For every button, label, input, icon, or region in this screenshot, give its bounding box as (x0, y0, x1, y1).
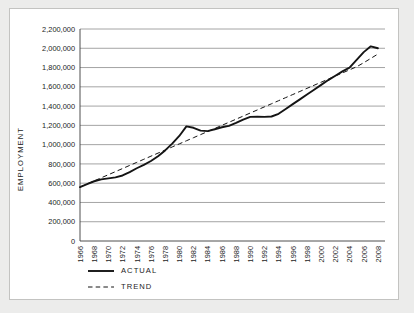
y-tick-label: 1,400,000 (42, 102, 75, 111)
series-line-trend (80, 54, 378, 187)
x-tick-label: 1982 (189, 246, 198, 262)
x-tick-label: 1990 (246, 246, 255, 262)
x-tick-label: 1966 (76, 246, 85, 262)
x-tick-label: 1974 (133, 246, 142, 262)
x-tick-label: 1978 (161, 246, 170, 262)
y-tick-label: 1,000,000 (42, 140, 75, 149)
axis-lines (80, 29, 385, 241)
y-tick-label: 800,000 (48, 160, 75, 169)
legend-label-actual: ACTUAL (121, 266, 157, 275)
x-tick-label: 2004 (345, 246, 354, 262)
y-tick-label: 0 (71, 237, 75, 246)
x-tick-label: 2008 (374, 246, 383, 262)
x-axis-tick-labels: 1966196819701972197419761978198019821984… (76, 246, 383, 262)
x-tick-label: 1992 (260, 246, 269, 262)
legend-label-trend: TREND (121, 282, 152, 291)
employment-trend-chart: 2,200,0002,000,0001,800,0001,600,0001,40… (10, 9, 398, 299)
x-tick-label: 1996 (289, 246, 298, 262)
x-tick-label: 2000 (317, 246, 326, 262)
y-tick-label: 2,200,000 (42, 25, 75, 34)
y-tick-label: 2,000,000 (42, 44, 75, 53)
y-tick-label: 400,000 (48, 198, 75, 207)
chart-legend: ACTUALTREND (88, 266, 157, 291)
y-tick-label: 200,000 (48, 217, 75, 226)
x-tick-label: 2002 (331, 246, 340, 262)
y-tick-label: 1,800,000 (42, 63, 75, 72)
x-tick-label: 1984 (203, 246, 212, 262)
x-tick-label: 1986 (218, 246, 227, 262)
y-tick-label: 600,000 (48, 179, 75, 188)
y-tick-label: 1,600,000 (42, 82, 75, 91)
x-tick-label: 1976 (147, 246, 156, 262)
x-tick-label: 2006 (360, 246, 369, 262)
x-tick-label: 1968 (90, 246, 99, 262)
y-axis-title: EMPLOYMENT (16, 127, 25, 191)
x-tick-label: 1972 (118, 246, 127, 262)
x-tick-label: 1998 (303, 246, 312, 262)
x-tick-label: 1970 (104, 246, 113, 262)
x-tick-label: 1994 (274, 246, 283, 262)
x-tick-label: 1980 (175, 246, 184, 262)
y-tick-label: 1,200,000 (42, 121, 75, 130)
y-axis-tick-labels: 2,200,0002,000,0001,800,0001,600,0001,40… (42, 25, 75, 246)
chart-card: 2,200,0002,000,0001,800,0001,600,0001,40… (9, 8, 399, 300)
x-tick-label: 1988 (232, 246, 241, 262)
figure-root: 2,200,0002,000,0001,800,0001,600,0001,40… (0, 0, 414, 313)
